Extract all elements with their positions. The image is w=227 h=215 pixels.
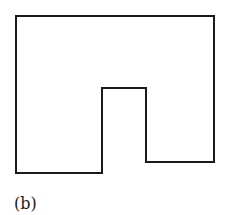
diagram-canvas	[0, 0, 227, 215]
shape-outline	[16, 16, 214, 173]
figure-label: (b)	[14, 196, 37, 212]
